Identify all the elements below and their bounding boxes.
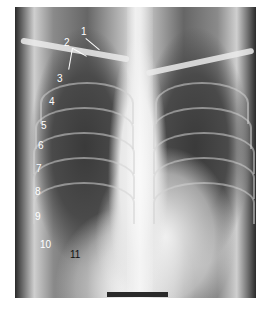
rib-label-2: 2 bbox=[64, 38, 70, 48]
rib-label-6: 6 bbox=[38, 141, 44, 151]
rib-label-1: 1 bbox=[81, 27, 87, 37]
chest-xray-image bbox=[15, 7, 256, 298]
rib-label-4: 4 bbox=[49, 97, 55, 107]
rib-label-7: 7 bbox=[36, 164, 42, 174]
rib-label-9: 9 bbox=[35, 212, 41, 222]
rib-shadow bbox=[153, 182, 255, 224]
rib-shadow bbox=[33, 182, 135, 224]
rib-label-5: 5 bbox=[41, 121, 47, 131]
rib-label-10: 10 bbox=[40, 240, 51, 250]
rib-label-8: 8 bbox=[35, 187, 41, 197]
scale-bar bbox=[107, 292, 168, 297]
label-11: 11 bbox=[70, 250, 80, 260]
rib-label-3: 3 bbox=[57, 74, 63, 84]
right-clavicle bbox=[146, 48, 255, 77]
